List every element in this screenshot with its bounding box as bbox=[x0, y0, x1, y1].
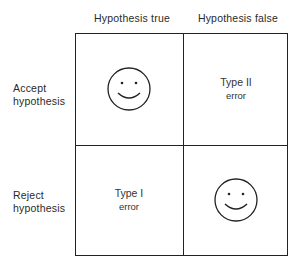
type-ii-error-label: Type II error bbox=[220, 76, 252, 102]
decision-matrix-grid: Type II error Type I error bbox=[75, 33, 288, 256]
cell-accept-false: Type II error bbox=[183, 34, 289, 144]
row-header-accept-line1: Accept bbox=[13, 82, 65, 95]
cell-accept-true bbox=[76, 34, 182, 144]
row-header-reject-line1: Reject bbox=[13, 189, 65, 202]
cell-reject-false bbox=[183, 145, 289, 255]
row-header-reject-line2: hypothesis bbox=[13, 202, 65, 215]
row-header-accept-line2: hypothesis bbox=[13, 95, 65, 108]
row-header-reject: Reject hypothesis bbox=[13, 189, 65, 215]
column-header-hypothesis-false: Hypothesis false bbox=[183, 12, 293, 24]
smiley-face-icon bbox=[213, 177, 259, 223]
smiley-face-icon bbox=[106, 66, 152, 112]
column-header-hypothesis-true: Hypothesis true bbox=[77, 12, 187, 24]
row-header-accept: Accept hypothesis bbox=[13, 82, 65, 108]
cell-reject-true: Type I error bbox=[76, 145, 182, 255]
type-i-error-label: Type I error bbox=[115, 187, 144, 213]
